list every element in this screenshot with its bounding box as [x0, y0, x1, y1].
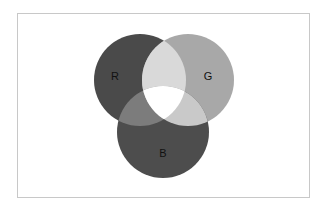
set-g-label: G: [204, 70, 213, 82]
set-r-label: R: [111, 70, 119, 82]
set-b-label: B: [159, 147, 166, 159]
venn-diagram: R G B: [0, 0, 323, 210]
